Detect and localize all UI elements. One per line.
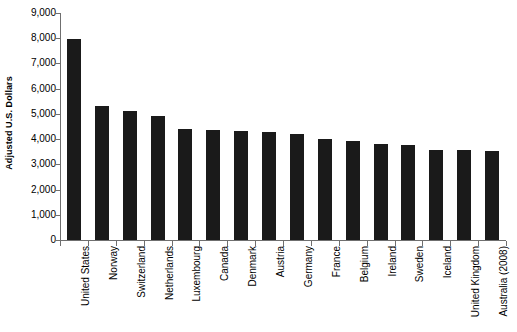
y-axis-tick-label: 5,000 — [18, 109, 56, 119]
bar — [206, 130, 220, 240]
y-axis-tick-mark — [55, 215, 60, 216]
x-axis-tick-mark — [367, 241, 368, 246]
x-axis-tick-label: Germany — [302, 246, 316, 332]
bar — [178, 129, 192, 240]
y-axis-tick-label: 0 — [18, 235, 56, 245]
x-axis-tick-label: France — [330, 246, 344, 332]
x-axis-tick-mark — [172, 241, 173, 246]
x-axis-tick-mark — [450, 241, 451, 246]
bar — [457, 150, 471, 240]
x-axis-tick-mark — [144, 241, 145, 246]
y-axis-tick-label: 3,000 — [18, 159, 56, 169]
x-axis-tick-mark — [395, 241, 396, 246]
x-axis-tick-mark — [506, 241, 507, 246]
x-axis-tick-label: Netherlands — [163, 246, 177, 332]
x-axis-tick-label: Canada — [218, 246, 232, 332]
bar — [151, 116, 165, 240]
y-axis-tick-mark — [55, 13, 60, 14]
x-axis-tick-label: Australia (2008) — [497, 246, 511, 332]
bar — [95, 106, 109, 240]
bar — [485, 151, 499, 240]
bar — [429, 150, 443, 240]
y-axis-tick-labels: 01,0002,0003,0004,0005,0006,0007,0008,00… — [18, 0, 56, 250]
bar — [123, 111, 137, 240]
bar — [374, 144, 388, 240]
x-axis-tick-label: Denmark — [246, 246, 260, 332]
x-axis-tick-mark — [283, 241, 284, 246]
x-axis-tick-mark — [116, 241, 117, 246]
y-axis-tick-mark — [55, 190, 60, 191]
x-axis-tick-mark — [311, 241, 312, 246]
y-axis-tick-label: 9,000 — [18, 8, 56, 18]
bar — [262, 132, 276, 240]
x-axis-tick-label: Iceland — [441, 246, 455, 332]
x-axis-tick-label: Sweden — [413, 246, 427, 332]
x-axis-tick-labels: United StatesNorwaySwitzerlandNetherland… — [60, 246, 506, 332]
y-axis-tick-label: 2,000 — [18, 185, 56, 195]
bar — [346, 141, 360, 240]
y-axis-tick-mark — [55, 63, 60, 64]
x-axis-tick-label: Luxembourg — [190, 246, 204, 332]
bar — [290, 134, 304, 240]
x-axis-tick-mark — [478, 241, 479, 246]
x-axis-tick-label: Norway — [107, 246, 121, 332]
x-axis-tick-label: Austria — [274, 246, 288, 332]
x-axis-tick-mark — [199, 241, 200, 246]
bar — [67, 39, 81, 240]
x-axis-tick-mark — [60, 241, 61, 246]
x-axis-tick-label: United Kingdom — [469, 246, 483, 332]
x-axis-tick-label: Switzerland — [135, 246, 149, 332]
y-axis-tick-label: 6,000 — [18, 84, 56, 94]
y-axis-tick-mark — [55, 38, 60, 39]
y-axis-tick-label: 8,000 — [18, 33, 56, 43]
y-axis-tick-mark — [55, 164, 60, 165]
bar — [234, 131, 248, 240]
bar — [401, 145, 415, 240]
x-axis-tick-mark — [227, 241, 228, 246]
x-axis-tick-label: United States — [79, 246, 93, 332]
y-axis-title: Adjusted U.S. Dollars — [0, 0, 18, 245]
y-axis-tick-label: 7,000 — [18, 58, 56, 68]
y-axis-tick-label: 1,000 — [18, 210, 56, 220]
bar-chart: Adjusted U.S. Dollars 01,0002,0003,0004,… — [0, 0, 517, 332]
x-axis-tick-label: Belgium — [358, 246, 372, 332]
x-axis-tick-label: Ireland — [386, 246, 400, 332]
y-axis-tick-mark — [55, 114, 60, 115]
y-axis-tick-label: 4,000 — [18, 134, 56, 144]
x-axis-tick-mark — [88, 241, 89, 246]
y-axis-tick-mark — [55, 139, 60, 140]
plot-area — [60, 13, 506, 240]
y-axis-tick-mark — [55, 89, 60, 90]
x-axis-tick-mark — [422, 241, 423, 246]
x-axis-tick-mark — [255, 241, 256, 246]
x-axis-tick-mark — [339, 241, 340, 246]
bar — [318, 139, 332, 240]
y-axis-title-text: Adjusted U.S. Dollars — [4, 76, 14, 170]
